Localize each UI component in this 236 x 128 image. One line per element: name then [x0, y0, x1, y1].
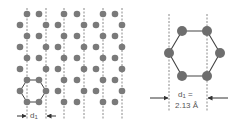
spacing-subscript: 1: [34, 114, 37, 120]
atom-icon: [74, 99, 81, 106]
atom-icon: [17, 44, 24, 51]
atom-icon: [74, 55, 81, 62]
atom-icon: [100, 55, 107, 62]
atom-icon: [93, 88, 100, 95]
atom-icon: [81, 66, 88, 73]
atom-icon: [119, 88, 126, 95]
atom-icon: [36, 99, 43, 106]
atom-icon: [119, 22, 126, 29]
atom-icon: [177, 71, 187, 81]
atom-icon: [55, 22, 62, 29]
right-spacing-value: 2.13 Å: [175, 101, 198, 110]
atom-icon: [24, 77, 31, 84]
left-spacing-label: d1: [30, 111, 38, 122]
atom-icon: [36, 77, 43, 84]
atom-icon: [43, 66, 50, 73]
atom-icon: [81, 88, 88, 95]
atom-icon: [202, 26, 212, 36]
atom-icon: [17, 22, 24, 29]
atom-icon: [112, 11, 119, 18]
atom-icon: [215, 48, 225, 58]
atom-icon: [100, 99, 107, 106]
atom-icon: [43, 44, 50, 51]
atom-icon: [100, 33, 107, 40]
atom-icon: [43, 22, 50, 29]
atom-icon: [61, 99, 68, 106]
atom-icon: [36, 55, 43, 62]
atom-icon: [119, 44, 126, 51]
atom-icon: [202, 71, 212, 81]
atom-icon: [177, 26, 187, 36]
atom-icon: [81, 22, 88, 29]
atom-icon: [61, 33, 68, 40]
atom-icon: [36, 33, 43, 40]
lattice-diagram: [0, 0, 236, 128]
atom-icon: [24, 55, 31, 62]
atom-icon: [61, 11, 68, 18]
atom-icon: [43, 88, 50, 95]
atom-icon: [36, 11, 43, 18]
atom-icon: [93, 66, 100, 73]
atom-icon: [112, 33, 119, 40]
right-hexagon-atoms: [164, 26, 225, 81]
atom-icon: [17, 88, 24, 95]
atom-icon: [17, 66, 24, 73]
atom-icon: [74, 11, 81, 18]
atom-icon: [112, 99, 119, 106]
atom-icon: [55, 44, 62, 51]
atom-icon: [61, 55, 68, 62]
right-spacing-label-line1: d1 =: [178, 90, 193, 101]
atom-icon: [74, 77, 81, 84]
left-hexagon-outline: [20, 80, 46, 102]
atom-icon: [93, 44, 100, 51]
atom-icon: [100, 11, 107, 18]
atom-icon: [55, 88, 62, 95]
atom-icon: [24, 33, 31, 40]
hexagon-bonds: [20, 80, 46, 102]
atom-icon: [61, 77, 68, 84]
atom-icon: [164, 48, 174, 58]
atom-icon: [119, 66, 126, 73]
atom-icon: [81, 44, 88, 51]
hexagon-bonds: [169, 31, 220, 76]
atom-icon: [100, 77, 107, 84]
atom-icon: [112, 77, 119, 84]
atom-icon: [74, 33, 81, 40]
atom-icon: [93, 22, 100, 29]
atom-icon: [55, 66, 62, 73]
right-hexagon-outline: [169, 31, 220, 76]
equals-sign: =: [186, 90, 193, 99]
left-lattice-atoms: [17, 11, 126, 106]
atom-icon: [112, 55, 119, 62]
atom-icon: [24, 99, 31, 106]
atom-icon: [24, 11, 31, 18]
